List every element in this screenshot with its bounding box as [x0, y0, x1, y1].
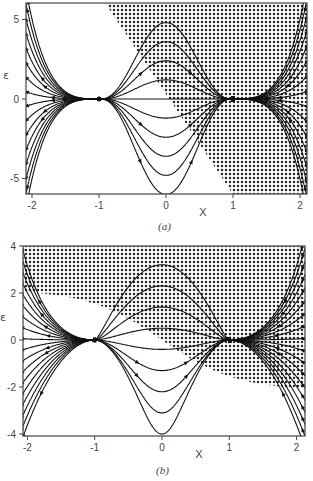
caption-b: (b) — [156, 464, 169, 476]
hatched-region — [14, 239, 310, 388]
x-tick-label: -1 — [95, 200, 104, 211]
arrow-icon — [24, 91, 29, 95]
x-tick-label: 1 — [230, 200, 236, 211]
x-tick-label: 1 — [227, 442, 233, 453]
y-tick-label: 2 — [10, 288, 16, 299]
x-tick-label: -2 — [23, 442, 32, 453]
phase-portrait-figure: -2-101250-5Xε -2-1012420-2-4Xε — [0, 0, 313, 481]
panel-a: -2-101250-5Xε — [3, 0, 313, 218]
x-tick-label: -2 — [28, 200, 37, 211]
caption-a: (a) — [158, 220, 171, 232]
x-axis-label: X — [195, 448, 203, 460]
y-tick-label: -4 — [7, 429, 16, 440]
arrow-icon — [300, 434, 304, 439]
x-axis-label: X — [199, 206, 207, 218]
y-tick-label: 0 — [10, 335, 16, 346]
x-tick-label: -1 — [90, 442, 99, 453]
panel-b: -2-1012420-2-4Xε — [0, 239, 310, 460]
arrow-icon — [24, 103, 29, 107]
y-tick-label: 4 — [10, 241, 16, 252]
x-tick-label: 0 — [159, 442, 165, 453]
x-tick-label: 2 — [294, 442, 300, 453]
arrow-icon — [20, 427, 24, 432]
y-tick-label: 0 — [13, 94, 19, 105]
y-axis-label: ε — [3, 69, 9, 82]
y-axis-label: ε — [0, 311, 6, 324]
y-tick-label: -5 — [10, 173, 19, 184]
y-tick-label: -2 — [7, 382, 16, 393]
x-tick-label: 0 — [163, 200, 169, 211]
arrow-icon — [302, 194, 306, 199]
x-tick-label: 2 — [297, 200, 303, 211]
y-tick-label: 5 — [13, 14, 19, 25]
arrow-icon — [20, 348, 25, 352]
arrow-icon — [45, 345, 50, 349]
